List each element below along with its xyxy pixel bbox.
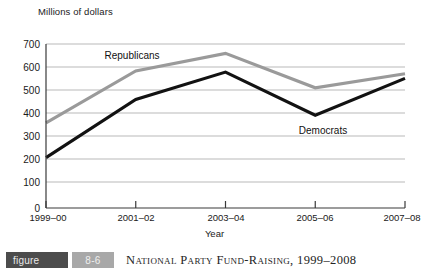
figure-number-badge: 8-6 xyxy=(72,252,114,268)
series-label-republicans: Republicans xyxy=(104,50,159,61)
line-chart-plot: 700 600 500 400 300 200 100 0 Republican… xyxy=(0,0,429,245)
y-tick-700: 700 xyxy=(23,39,40,50)
axes xyxy=(46,44,405,208)
x-tick-labels: 1999–00 2001–02 2003–04 2005–06 2007–08 xyxy=(30,212,421,223)
y-tick-500: 500 xyxy=(23,85,40,96)
y-tick-300: 300 xyxy=(23,131,40,142)
figure-tag-badge: figure xyxy=(6,252,68,268)
line-series-democrats xyxy=(46,72,405,158)
y-tick-100: 100 xyxy=(23,177,40,188)
y-tick-400: 400 xyxy=(23,108,40,119)
figure-container: Millions of dollars 700 600 500 400 300 … xyxy=(0,0,429,276)
gridlines xyxy=(46,44,405,182)
series-label-democrats: Democrats xyxy=(299,125,347,136)
x-tick-label-2: 2003–04 xyxy=(208,212,245,223)
figure-caption-bar: figure 8-6 National Party Fund-Raising, … xyxy=(0,250,429,270)
x-tick-label-3: 2005–06 xyxy=(297,212,334,223)
y-tick-200: 200 xyxy=(23,154,40,165)
figure-caption-text: National Party Fund-Raising, 1999–2008 xyxy=(126,253,356,268)
y-tick-600: 600 xyxy=(23,62,40,73)
y-tick-labels: 700 600 500 400 300 200 100 0 xyxy=(23,39,40,214)
x-axis-title-wrap: Year xyxy=(0,228,429,239)
chart-area: Millions of dollars 700 600 500 400 300 … xyxy=(0,0,429,245)
x-axis-title: Year xyxy=(205,228,224,239)
x-tick-label-0: 1999–00 xyxy=(30,212,67,223)
x-tick-label-1: 2001–02 xyxy=(118,212,155,223)
x-tick-label-4: 2007–08 xyxy=(384,212,421,223)
